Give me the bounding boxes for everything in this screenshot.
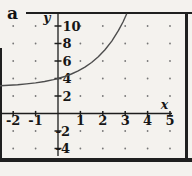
grid-dot <box>12 148 14 150</box>
grid-dot <box>12 25 14 27</box>
grid-dot <box>147 43 149 45</box>
grid-dot <box>35 148 37 150</box>
grid-dot <box>80 148 82 150</box>
grid-dot <box>124 148 126 150</box>
graph-canvas: -2-112345108642-2-4yx <box>0 0 192 176</box>
grid-dot <box>12 78 14 80</box>
grid-dot <box>169 148 171 150</box>
grid-dot <box>124 43 126 45</box>
grid-dot <box>169 60 171 62</box>
grid-dot <box>147 60 149 62</box>
grid-dot <box>80 130 82 132</box>
grid-dot <box>12 95 14 97</box>
grid-dot <box>102 25 104 27</box>
grid-dot <box>102 130 104 132</box>
y-tick-label: 2 <box>63 89 72 104</box>
grid-dot <box>102 78 104 80</box>
grid-dot <box>102 60 104 62</box>
grid-dot <box>124 95 126 97</box>
grid-dot <box>124 25 126 27</box>
y-tick-label: 4 <box>63 71 72 86</box>
x-tick-label: 2 <box>98 113 107 128</box>
grid-dot <box>124 130 126 132</box>
grid-dot <box>35 130 37 132</box>
y-tick-label: 6 <box>63 54 72 69</box>
grid-dot <box>80 43 82 45</box>
grid-dot <box>102 148 104 150</box>
grid-dot <box>147 78 149 80</box>
grid-dot <box>147 148 149 150</box>
figure-panel: a -2-112345108642-2-4yx <box>0 0 192 176</box>
grid-dot <box>169 130 171 132</box>
x-tick-label: 4 <box>143 113 152 128</box>
grid-dot <box>169 78 171 80</box>
x-tick-label: 3 <box>121 113 130 128</box>
grid-dot <box>80 60 82 62</box>
grid-dot <box>12 130 14 132</box>
grid-dot <box>35 43 37 45</box>
grid-dot <box>80 95 82 97</box>
grid-dot <box>80 78 82 80</box>
grid-dot <box>169 25 171 27</box>
grid-dot <box>169 43 171 45</box>
grid-dot <box>169 95 171 97</box>
grid-dot <box>124 78 126 80</box>
y-tick-label: -4 <box>56 141 70 156</box>
x-tick-label: -1 <box>28 113 42 128</box>
grid-dot <box>147 25 149 27</box>
x-axis-label: x <box>160 97 169 112</box>
x-tick-label: -2 <box>6 113 20 128</box>
x-tick-label: 5 <box>165 113 174 128</box>
y-axis-label: y <box>42 10 51 25</box>
grid-dot <box>102 95 104 97</box>
grid-dot <box>35 78 37 80</box>
grid-dot <box>35 60 37 62</box>
y-tick-label: -2 <box>56 124 70 139</box>
y-tick-label: 10 <box>63 19 81 34</box>
grid-dot <box>147 95 149 97</box>
grid-dot <box>12 60 14 62</box>
grid-dot <box>124 60 126 62</box>
y-tick-label: 8 <box>63 36 72 51</box>
grid-dot <box>147 130 149 132</box>
grid-dot <box>102 43 104 45</box>
grid-dot <box>35 25 37 27</box>
grid-dot <box>12 43 14 45</box>
x-tick-label: 1 <box>76 113 85 128</box>
grid-dot <box>35 95 37 97</box>
